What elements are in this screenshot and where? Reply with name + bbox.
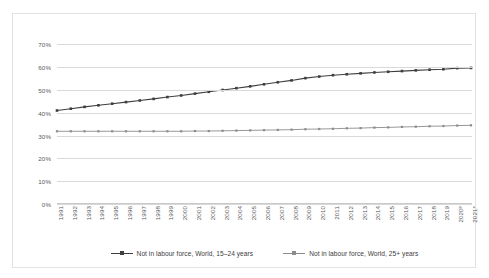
data-point-marker bbox=[166, 130, 168, 132]
data-point-marker bbox=[429, 125, 431, 127]
x-axis-tick-label: 1994 bbox=[98, 206, 105, 220]
data-point-marker bbox=[332, 74, 335, 77]
gridline bbox=[57, 158, 472, 159]
data-point-marker bbox=[291, 129, 293, 131]
y-axis-tick-label: 30% bbox=[38, 132, 51, 139]
x-axis-tick-label: 2012 bbox=[347, 206, 354, 220]
data-point-marker bbox=[263, 83, 266, 86]
data-point-marker bbox=[304, 77, 307, 80]
gridline bbox=[57, 44, 472, 45]
x-axis-tick-label: 2010 bbox=[319, 206, 326, 220]
x-axis-tick-label: 1997 bbox=[140, 206, 147, 220]
y-axis-tick-label: 70% bbox=[38, 41, 51, 48]
data-point-marker bbox=[456, 124, 458, 126]
data-point-marker bbox=[180, 94, 183, 97]
data-point-marker bbox=[346, 73, 349, 76]
plot-area: 0%10%20%30%40%50%60%70% bbox=[57, 33, 472, 204]
y-axis-tick-label: 10% bbox=[38, 178, 51, 185]
x-axis-tick-label: 1999 bbox=[167, 206, 174, 220]
data-point-marker bbox=[470, 124, 472, 126]
x-axis-tick-label: 2015 bbox=[388, 206, 395, 220]
data-point-marker bbox=[401, 70, 404, 73]
data-point-marker bbox=[152, 98, 155, 101]
data-point-marker bbox=[235, 129, 237, 131]
gridline bbox=[57, 90, 472, 91]
data-point-marker bbox=[97, 104, 100, 107]
data-point-marker bbox=[373, 71, 376, 74]
x-axis-tick-label: 2017 bbox=[416, 206, 423, 220]
x-axis-tick-label: 2007 bbox=[278, 206, 285, 220]
y-axis-tick-label: 20% bbox=[38, 155, 51, 162]
x-axis-tick-label: 2008 bbox=[292, 206, 299, 220]
data-point-marker bbox=[166, 96, 169, 99]
x-axis-tick-label: 2001 bbox=[195, 206, 202, 220]
x-axis-tick-label: 2004 bbox=[236, 206, 243, 220]
chart-legend: Not in labour force, World, 15–24 yearsN… bbox=[57, 246, 472, 260]
x-axis-tick-label: 2002 bbox=[209, 206, 216, 220]
x-axis-tick-label: 2000 bbox=[181, 206, 188, 220]
data-point-marker bbox=[373, 127, 375, 129]
gridline bbox=[57, 67, 472, 68]
y-axis-tick-label: 60% bbox=[38, 64, 51, 71]
x-axis-tick-label: 2005 bbox=[250, 206, 257, 220]
legend-marker-icon bbox=[111, 250, 133, 257]
legend-item-1[interactable]: Not in labour force, World, 15–24 years bbox=[111, 250, 254, 257]
data-point-marker bbox=[249, 129, 251, 131]
x-axis-tick-label: 1998 bbox=[154, 206, 161, 220]
data-point-marker bbox=[83, 106, 86, 109]
legend-label: Not in labour force, World, 15–24 years bbox=[137, 250, 254, 257]
x-axis-tick-label: 2006 bbox=[264, 206, 271, 220]
legend-label: Not in labour force, World, 25+ years bbox=[309, 250, 418, 257]
gridline bbox=[57, 113, 472, 114]
y-axis-tick-label: 50% bbox=[38, 87, 51, 94]
data-point-marker bbox=[359, 72, 362, 75]
data-point-marker bbox=[153, 130, 155, 132]
y-axis-tick-label: 0% bbox=[42, 201, 51, 208]
data-point-marker bbox=[139, 99, 142, 102]
data-point-marker bbox=[70, 130, 72, 132]
legend-marker-icon bbox=[283, 250, 305, 257]
x-axis-line bbox=[57, 203, 472, 204]
data-point-marker bbox=[208, 130, 210, 132]
data-point-marker bbox=[401, 126, 403, 128]
x-axis-tick-label: 1991 bbox=[57, 206, 64, 220]
data-point-marker bbox=[125, 130, 127, 132]
data-point-marker bbox=[277, 81, 280, 84]
data-point-marker bbox=[56, 109, 59, 112]
data-point-marker bbox=[332, 128, 334, 130]
data-point-marker bbox=[194, 130, 196, 132]
gridline bbox=[57, 136, 472, 137]
x-axis-tick-label: 1996 bbox=[126, 206, 133, 220]
x-axis-tick-label: 2014 bbox=[374, 206, 381, 220]
data-point-marker bbox=[277, 129, 279, 131]
data-point-marker bbox=[97, 130, 99, 132]
data-point-marker bbox=[442, 125, 444, 127]
chart-container: 0%10%20%30%40%50%60%70% 1991199219931994… bbox=[0, 0, 489, 278]
data-point-marker bbox=[111, 102, 114, 105]
data-point-marker bbox=[387, 126, 389, 128]
x-axis-tick-label: 2009 bbox=[305, 206, 312, 220]
data-point-marker bbox=[318, 75, 321, 78]
data-point-marker bbox=[318, 128, 320, 130]
data-point-marker bbox=[360, 127, 362, 129]
x-axis-tick-label: 2011 bbox=[333, 206, 340, 220]
data-point-marker bbox=[346, 127, 348, 129]
data-point-marker bbox=[139, 130, 141, 132]
x-axis-tick-label: 1993 bbox=[85, 206, 92, 220]
series-lines-svg bbox=[57, 33, 472, 204]
data-point-marker bbox=[194, 92, 197, 95]
data-point-marker bbox=[290, 79, 293, 82]
data-point-marker bbox=[111, 130, 113, 132]
data-point-marker bbox=[304, 128, 306, 130]
data-point-marker bbox=[125, 101, 128, 104]
x-axis-tick-label: 2018 bbox=[430, 206, 437, 220]
data-point-marker bbox=[249, 85, 252, 88]
data-point-marker bbox=[387, 70, 390, 73]
data-point-marker bbox=[415, 69, 418, 72]
x-axis-tick-label: 2003 bbox=[223, 206, 230, 220]
legend-item-2[interactable]: Not in labour force, World, 25+ years bbox=[283, 250, 418, 257]
x-axis-tick-label: 2013 bbox=[361, 206, 368, 220]
x-axis-tick-labels: 1991199219931994199519961997199819992000… bbox=[57, 206, 472, 244]
x-axis-tick-label: 2019 bbox=[443, 206, 450, 220]
data-point-marker bbox=[70, 107, 73, 110]
